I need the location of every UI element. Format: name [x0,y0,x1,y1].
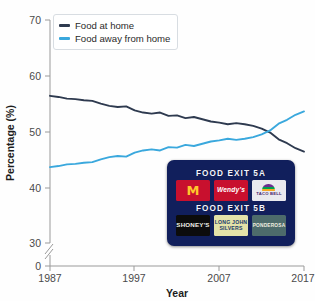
mcdonalds-logo-icon: M [176,180,210,201]
x-axis-ticks [50,266,304,271]
y-axis-ticks [45,20,50,266]
y-tick-label-0: 0 [35,260,41,272]
y-tick-label-40: 40 [29,182,41,194]
chart-container: 70 60 50 40 30 0 1987 1997 2007 2017 Yea… [0,0,315,301]
shoneys-wordmark: SHONEY'S [176,222,209,229]
legend-item-food-away-from-home: Food away from home [59,32,170,45]
sign-logo-row-b: SHONEY'S LONG JOHN SILVERS PONDEROSA [176,215,286,236]
x-tick-label-2017: 2017 [291,272,315,284]
long-john-silvers-wordmark: LONG JOHN SILVERS [214,220,248,231]
sign-heading-exit-5a: FOOD EXIT 5A [196,169,266,178]
ponderosa-logo-icon: PONDEROSA [252,215,286,236]
legend-swatch-food-away-from-home [59,37,70,40]
inset-highway-food-sign-photo: FOOD EXIT 5A M Wendy's TACO BELL FOOD EX… [164,157,298,249]
x-axis-title: Year [166,287,188,299]
taco-bell-wordmark: TACO BELL [256,192,281,196]
taco-bell-bell-glyph [262,184,275,191]
sign-logo-row-a: M Wendy's TACO BELL [176,180,286,201]
y-tick-label-60: 60 [29,70,41,82]
long-john-silvers-logo-icon: LONG JOHN SILVERS [214,215,248,236]
golden-arches-glyph: M [187,184,200,197]
x-tick-label-1997: 1997 [122,272,146,284]
chart-legend: Food at home Food away from home [53,14,178,50]
taco-bell-logo-icon: TACO BELL [252,180,286,201]
legend-item-food-at-home: Food at home [59,19,170,32]
legend-swatch-food-at-home [59,24,70,27]
y-tick-label-30: 30 [29,237,41,249]
legend-label-food-at-home: Food at home [75,19,134,32]
shoneys-logo-icon: SHONEY'S [176,215,210,236]
x-tick-label-1987: 1987 [38,272,62,284]
y-axis-title: Percentage (%) [4,105,16,181]
series-line-food-at-home [50,96,304,152]
sign-heading-exit-5b: FOOD EXIT 5B [196,204,266,213]
wendys-logo-icon: Wendy's [214,180,248,201]
x-tick-label-2007: 2007 [207,272,231,284]
highway-sign-board: FOOD EXIT 5A M Wendy's TACO BELL FOOD EX… [167,160,295,246]
legend-label-food-away-from-home: Food away from home [75,32,170,45]
wendys-wordmark: Wendy's [217,187,245,194]
y-tick-label-70: 70 [29,14,41,26]
ponderosa-wordmark: PONDEROSA [253,223,286,228]
y-axis-break-icon [45,244,53,259]
y-tick-label-50: 50 [29,126,41,138]
